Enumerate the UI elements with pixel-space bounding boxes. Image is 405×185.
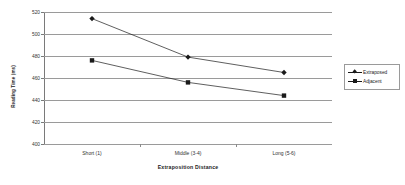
diamond-marker-icon — [347, 68, 363, 77]
legend-item-extraposed[interactable]: Extraposed — [347, 68, 396, 77]
diamond-marker-icon — [185, 54, 190, 59]
series-line — [92, 19, 284, 73]
y-axis-tick-label: 400 — [32, 142, 40, 147]
diamond-marker-icon — [89, 16, 94, 21]
gridline — [44, 144, 332, 145]
y-axis-tick-label: 500 — [32, 32, 40, 37]
plot-area — [44, 12, 332, 144]
series-adjacent — [90, 58, 286, 98]
y-axis-tick-label: 520 — [32, 10, 40, 15]
line-chart: Reading Time (ms) 400420440460480500520 … — [0, 0, 405, 185]
chart-legend: ExtraposedAdjacent — [344, 64, 400, 90]
x-axis-tick-mark — [140, 144, 141, 147]
x-axis-tick-labels: Short (1)Middle (3-4)Long (5-6) — [44, 150, 332, 162]
x-axis-title: Extraposition Distance — [44, 164, 332, 170]
y-axis-tick-label: 440 — [32, 98, 40, 103]
series-line — [92, 60, 284, 95]
square-marker-icon — [347, 77, 363, 86]
x-axis-tick-label: Long (5-6) — [272, 150, 295, 156]
legend-item-label: Extraposed — [363, 70, 387, 75]
y-axis-tick-label: 420 — [32, 120, 40, 125]
y-axis-title: Reading Time (ms) — [6, 38, 20, 134]
x-axis-tick-label: Short (1) — [82, 150, 101, 156]
y-axis-tick-label: 480 — [32, 54, 40, 59]
legend-item-adjacent[interactable]: Adjacent — [347, 77, 396, 86]
legend-item-label: Adjacent — [363, 79, 382, 84]
square-marker-icon — [90, 58, 94, 62]
x-axis-tick-label: Middle (3-4) — [175, 150, 202, 156]
y-axis-tick-label: 460 — [32, 76, 40, 81]
diamond-marker-icon — [281, 70, 286, 75]
x-axis-tick-mark — [236, 144, 237, 147]
y-axis-tick-labels: 400420440460480500520 — [20, 0, 42, 185]
y-axis-title-label: Reading Time (ms) — [11, 65, 16, 108]
square-marker-icon — [282, 93, 286, 97]
data-series-layer — [44, 12, 332, 144]
y-axis-tick-mark — [41, 144, 44, 145]
square-marker-icon — [186, 80, 190, 84]
